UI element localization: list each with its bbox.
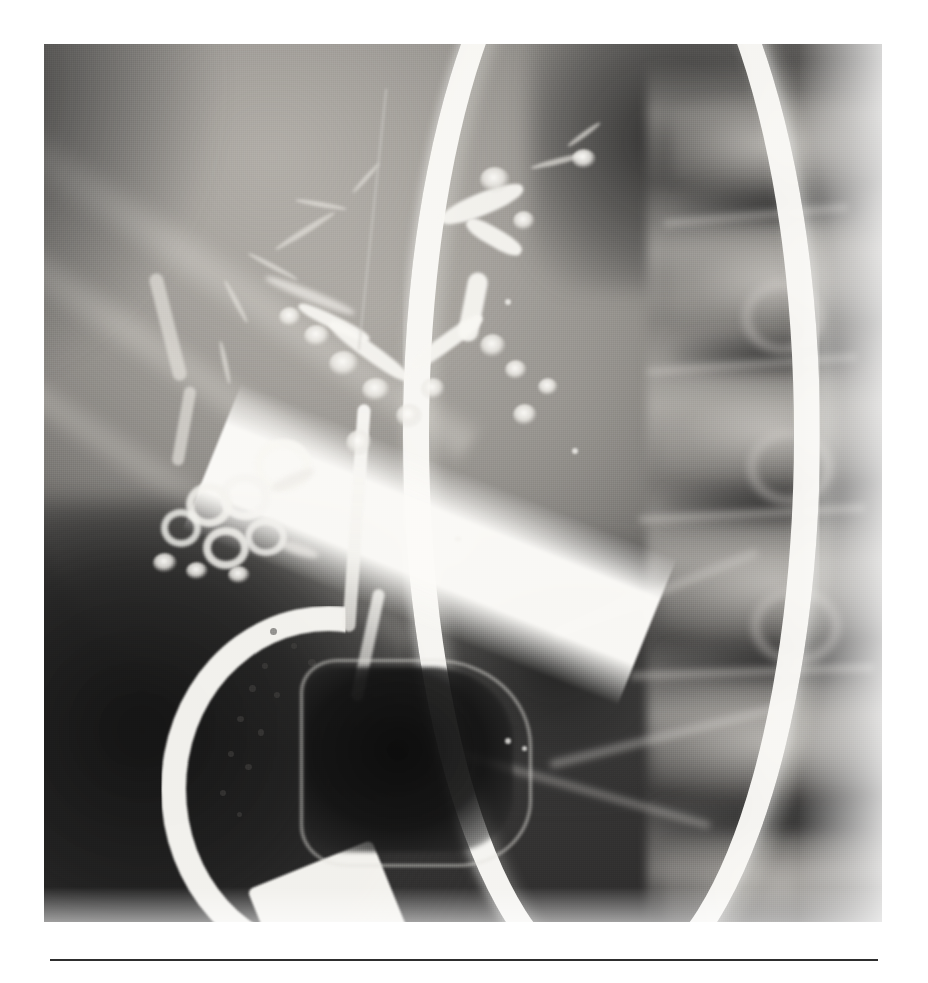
- scope-tip: [247, 839, 411, 922]
- bowel-wall-strand: [434, 742, 710, 829]
- intervertebral-disc-space: [664, 483, 865, 527]
- scope-marking: [274, 692, 280, 698]
- psoas-margin: [553, 548, 759, 640]
- cystic-duct-loop: [254, 439, 312, 493]
- right-hepatic-radicle: [566, 121, 601, 149]
- duct-nodule: [421, 378, 445, 400]
- duct-nodule: [538, 378, 558, 396]
- duodenoscope: [237, 44, 790, 922]
- left-hepatic-radicle: [218, 341, 232, 385]
- transverse-process: [647, 353, 857, 377]
- duct-nodule: [572, 149, 596, 169]
- lumbar-spine: [647, 62, 882, 922]
- cystic-duct-nodule: [153, 553, 177, 573]
- figure-page: Black and white fluoroscopic ERCP image …: [0, 0, 928, 983]
- scope-distal-shaft: [183, 383, 677, 705]
- contrast-speck: [522, 746, 527, 751]
- left-hepatic-duct: [296, 300, 372, 346]
- vertebral-pedicle-ring: [748, 430, 832, 504]
- left-hepatic-duct: [263, 272, 356, 318]
- bowel-gas-mid-right: [413, 536, 698, 799]
- left-lateral-duct: [171, 386, 197, 467]
- duct-nodule: [304, 325, 330, 347]
- left-hepatic-radicle: [351, 161, 381, 193]
- vertebral-body: [664, 378, 882, 483]
- intervertebral-disc-space: [681, 184, 865, 228]
- guidewire: [357, 88, 387, 350]
- duodenal-gas-cavity: [304, 667, 514, 851]
- transverse-process: [664, 203, 848, 228]
- vertebral-pedicle-ring: [743, 281, 823, 353]
- radiograph-image: [44, 44, 882, 922]
- left-lateral-duct: [148, 272, 188, 382]
- scan-grain-overlay: [44, 44, 882, 922]
- cystic-duct-loop: [245, 518, 287, 556]
- rib-shadow: [44, 285, 425, 660]
- left-hepatic-radicle: [295, 198, 347, 212]
- scope-halo: [403, 44, 834, 922]
- transverse-process: [639, 503, 865, 525]
- scope-marking: [455, 536, 461, 542]
- rib-shadow: [44, 162, 480, 578]
- plate-edge-fade: [44, 44, 882, 922]
- soft-tissue-field: [44, 44, 882, 922]
- scope-marking: [237, 812, 242, 817]
- contrast-speck: [505, 738, 511, 744]
- common-bile-duct: [342, 404, 371, 633]
- psoas-margin: [549, 699, 796, 770]
- scope-marking: [249, 685, 256, 692]
- duct-nodule: [505, 360, 527, 380]
- vertebral-body: [664, 834, 882, 922]
- intervertebral-disc-space: [664, 641, 874, 685]
- duct-nodule: [346, 430, 372, 456]
- cystic-duct-loop: [220, 474, 270, 520]
- duodenal-wall-contrast-rim: [300, 659, 532, 867]
- scope-bending-section: [161, 606, 496, 922]
- vertebral-body: [673, 97, 874, 194]
- hilar-confluence: [325, 316, 412, 385]
- duct-nodule: [329, 351, 359, 377]
- right-hepatic-duct: [463, 214, 526, 261]
- scope-marking: [245, 764, 252, 770]
- duct-nodule: [480, 334, 506, 358]
- liver-dome-shadow: [44, 44, 781, 746]
- duct-nodule: [396, 404, 422, 428]
- cystic-duct-segment: [278, 539, 319, 562]
- right-hepatic-duct: [437, 178, 527, 231]
- scope-marking: [237, 716, 244, 722]
- scope-marking: [258, 729, 264, 736]
- cystic-duct-nodule: [228, 566, 250, 584]
- scope-marking: [228, 751, 234, 757]
- cystic-duct-nodule: [186, 562, 208, 580]
- intervertebral-disc-space: [656, 799, 874, 843]
- left-hepatic-radicle: [274, 210, 337, 252]
- common-bile-duct-distal: [351, 588, 386, 702]
- vertebral-body: [673, 228, 883, 333]
- scope-marking: [220, 790, 226, 796]
- scope-marking: [262, 663, 268, 669]
- duct-nodule: [513, 404, 537, 426]
- duct-nodule: [362, 378, 390, 402]
- right-hepatic-radicle: [530, 151, 588, 171]
- duct-nodule: [480, 167, 510, 193]
- lateral-chest-wall-shadow: [44, 44, 262, 413]
- bowel-gas-lower-left: [44, 501, 480, 922]
- cystic-duct-loop: [186, 483, 232, 527]
- hilar-confluence: [408, 310, 487, 373]
- cystic-duct-loop: [203, 527, 249, 569]
- caption-divider-rule: [50, 959, 878, 961]
- vertebral-body: [664, 527, 882, 641]
- duct-nodule: [513, 211, 535, 231]
- cystic-duct-segment: [270, 465, 317, 495]
- duct-nodule: [279, 307, 301, 327]
- transverse-process: [631, 663, 874, 681]
- scope-marking: [505, 299, 511, 305]
- cystic-duct-loop: [161, 509, 201, 547]
- scope-marking: [291, 643, 297, 649]
- vertebral-pedicle-ring: [752, 588, 840, 664]
- scope-marking: [270, 628, 277, 635]
- left-hepatic-radicle: [247, 251, 299, 282]
- scope-marking: [572, 448, 578, 454]
- scope-marking: [308, 659, 316, 666]
- right-hepatic-duct: [457, 271, 490, 344]
